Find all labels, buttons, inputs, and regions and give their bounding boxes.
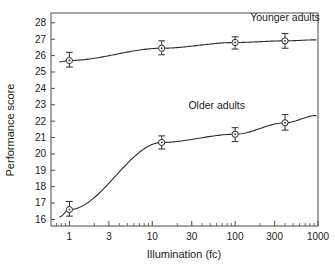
data-marker-center — [234, 42, 236, 44]
y-tick-label: 16 — [35, 214, 47, 225]
data-marker-center — [161, 142, 163, 144]
x-tick-label: 30 — [186, 231, 198, 242]
data-point-younger-4 — [282, 33, 289, 48]
data-point-older-4 — [282, 115, 289, 131]
data-marker-center — [68, 60, 70, 62]
y-tick-label: 21 — [35, 132, 47, 143]
series-annotations: Younger adultsOlder adults — [188, 11, 319, 111]
fit-curve-younger — [59, 40, 316, 62]
data-marker-center — [284, 40, 286, 42]
y-tick-label: 27 — [35, 34, 47, 45]
data-point-younger-3 — [232, 37, 239, 49]
y-tick-label: 22 — [35, 116, 47, 127]
x-tick-label: 1 — [67, 231, 73, 242]
data-point-older-2 — [158, 136, 165, 149]
x-axis-tick-labels: 1310301003001000 — [67, 231, 330, 242]
chart-page: 16171819202122232425262728 1310301003001… — [0, 0, 335, 268]
x-axis-ticks — [69, 221, 318, 226]
x-axis-title: Illumination (fc) — [147, 248, 222, 260]
series-label-younger-adults: Younger adults — [250, 11, 320, 23]
fit-curves — [59, 40, 316, 217]
data-marker-center — [161, 47, 163, 49]
x-tick-label: 100 — [227, 231, 244, 242]
data-marker-center — [68, 209, 70, 211]
y-tick-label: 28 — [35, 17, 47, 28]
series-label-older-adults: Older adults — [188, 99, 245, 111]
x-tick-label: 300 — [266, 231, 283, 242]
data-points-group — [66, 33, 288, 216]
x-tick-label: 3 — [106, 231, 112, 242]
plot-frame — [51, 13, 318, 226]
y-tick-label: 24 — [35, 83, 47, 94]
data-point-older-1 — [66, 201, 73, 216]
data-point-older-3 — [232, 128, 239, 142]
y-tick-label: 23 — [35, 99, 47, 110]
y-axis-ticks — [51, 23, 55, 220]
data-marker-center — [234, 133, 236, 135]
y-tick-label: 17 — [35, 197, 47, 208]
data-point-younger-2 — [158, 41, 165, 55]
fit-curve-older — [59, 116, 316, 217]
data-marker-center — [284, 122, 286, 124]
performance-illumination-chart: 16171819202122232425262728 1310301003001… — [0, 0, 335, 268]
y-tick-label: 25 — [35, 66, 47, 77]
y-tick-label: 26 — [35, 50, 47, 61]
y-axis-title: Performance score — [4, 84, 16, 177]
x-tick-label: 10 — [147, 231, 159, 242]
y-tick-label: 18 — [35, 181, 47, 192]
y-tick-label: 20 — [35, 148, 47, 159]
data-point-younger-1 — [66, 52, 73, 67]
y-tick-label: 19 — [35, 165, 47, 176]
x-tick-label: 1000 — [307, 231, 330, 242]
y-axis-tick-labels: 16171819202122232425262728 — [35, 17, 47, 225]
